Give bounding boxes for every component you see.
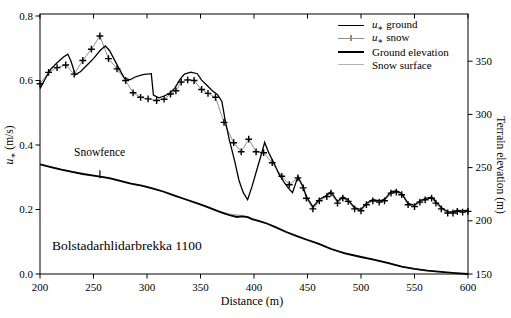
thin-line-sample-icon xyxy=(338,21,364,31)
chart-figure: 2002503003504004505005506000.00.20.40.60… xyxy=(0,0,511,318)
left-axis-label: u∗ (m/s) xyxy=(3,105,17,185)
legend-entry-u-snow: + u∗ snow xyxy=(338,32,449,45)
x-tick-label: 400 xyxy=(246,281,263,293)
x-tick-label: 350 xyxy=(192,281,209,293)
y-left-tick-label: 0.8 xyxy=(19,10,33,22)
legend-label: Snow surface xyxy=(372,59,432,71)
legend-entry-ground-elevation: Ground elevation xyxy=(338,45,449,58)
x-tick-label: 450 xyxy=(299,281,316,293)
y-right-tick-label: 250 xyxy=(476,161,493,173)
y-left-tick-label: 0.4 xyxy=(19,139,33,151)
thick-line-sample-icon xyxy=(338,47,364,57)
x-tick-label: 500 xyxy=(353,281,370,293)
x-tick-label: 200 xyxy=(32,281,49,293)
y-left-tick-label: 0.2 xyxy=(19,203,33,215)
legend-entry-snow-surface: Snow surface xyxy=(338,58,449,71)
y-right-tick-label: 300 xyxy=(476,108,493,120)
plus-marker-icon: + xyxy=(338,31,364,44)
x-axis-label: Distance (m) xyxy=(192,294,312,309)
station-label: Bolstadarhlidarbrekka 1100 xyxy=(52,238,202,254)
x-tick-label: 300 xyxy=(139,281,156,293)
x-tick-label: 550 xyxy=(406,281,423,293)
legend-label: Ground elevation xyxy=(372,46,449,58)
x-tick-label: 250 xyxy=(85,281,102,293)
y-right-tick-label: 350 xyxy=(476,55,493,67)
x-tick-label: 600 xyxy=(460,281,477,293)
legend: u∗ ground + u∗ snow Ground elevation Sno… xyxy=(338,19,449,71)
y-right-tick-label: 200 xyxy=(476,214,493,226)
y-left-tick-label: 0.6 xyxy=(19,74,33,86)
y-right-tick-label: 150 xyxy=(476,268,493,280)
y-left-tick-label: 0.0 xyxy=(19,268,33,280)
legend-label: u∗ snow xyxy=(372,31,409,46)
right-axis-label: Terrain elevation (m) xyxy=(493,105,507,225)
gray-line-sample-icon xyxy=(338,60,364,70)
plus-marker-line-sample-icon: + xyxy=(338,34,364,44)
snowfence-annotation-label: Snowfence xyxy=(74,146,125,158)
